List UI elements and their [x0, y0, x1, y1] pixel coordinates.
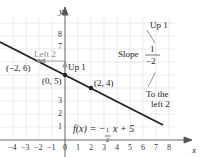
- x-tick: 2: [89, 144, 93, 152]
- x-tick: −2: [34, 144, 43, 152]
- y-tick-7: 7: [58, 43, 62, 51]
- function-lhs: f(x) = −: [73, 124, 105, 134]
- x-tick: 3: [102, 144, 106, 152]
- function-coef-num: 1: [106, 127, 109, 133]
- function-rhs: x + 5: [113, 124, 134, 134]
- x-tick: 7: [154, 144, 158, 152]
- x-tick: 6: [141, 144, 145, 152]
- left-2-label: left 2: [151, 100, 170, 109]
- point-label-2-4: (2, 4): [94, 79, 114, 88]
- x-tick: 1: [76, 144, 80, 152]
- slope-denominator: −2: [146, 57, 156, 66]
- y-tick-8: 8: [58, 31, 62, 39]
- x-tick: −1: [47, 144, 56, 152]
- function-line: [0, 42, 163, 125]
- y-axis-label: y: [59, 7, 63, 16]
- point-label-neg2-6: (−2, 6): [6, 64, 31, 73]
- x-tick: 5: [128, 144, 132, 152]
- x-tick: 0: [63, 144, 67, 152]
- up-1-annotation: Up 1: [68, 63, 86, 72]
- point-label-0-5: (0, 5): [42, 77, 62, 86]
- grid: [0, 18, 175, 138]
- point-2-4: [89, 86, 93, 90]
- y-tick-1: 1: [58, 123, 62, 131]
- x-axis-label: x: [192, 146, 196, 155]
- y-tick-2: 2: [58, 110, 62, 118]
- point-neg2-6: [37, 59, 41, 63]
- slope-up-1-label: Up 1: [150, 21, 168, 30]
- point-0-5: [63, 73, 67, 77]
- rise-run-arrows: [39, 59, 67, 75]
- x-tick: 4: [115, 144, 119, 152]
- to-the-label: To the: [146, 90, 169, 99]
- function-coef-den: 2: [106, 137, 109, 143]
- left-2-annotation: Left 2: [34, 50, 56, 59]
- x-tick: 8: [167, 144, 171, 152]
- x-tick: −3: [21, 144, 30, 152]
- slope-numerator: 1: [150, 45, 155, 54]
- y-tick-3: 3: [58, 97, 62, 105]
- x-tick: −4: [8, 144, 17, 152]
- slope-word: Slope: [118, 50, 139, 59]
